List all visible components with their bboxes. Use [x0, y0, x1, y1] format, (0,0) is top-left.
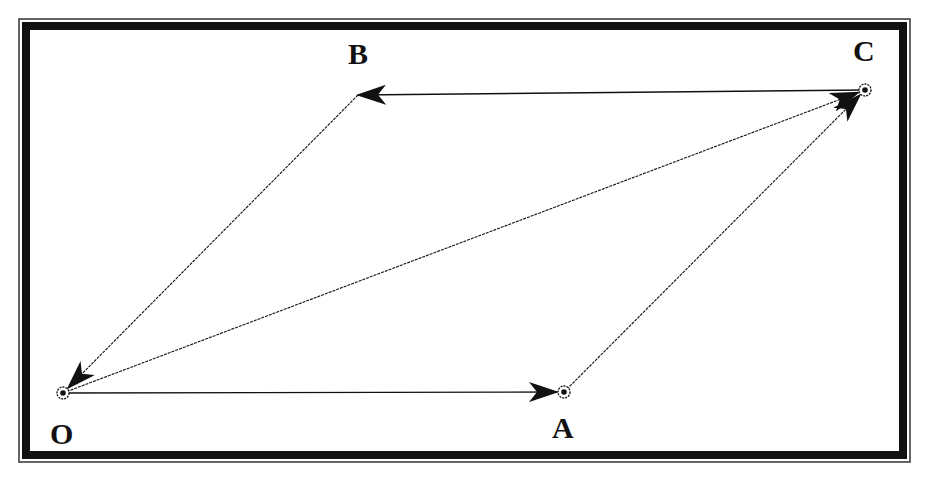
vector-BO: [68, 95, 358, 388]
vector-AC: [564, 95, 860, 392]
point-label-o: O: [50, 417, 73, 450]
diagram-canvas: OACB: [0, 0, 925, 477]
point-label-a: A: [552, 411, 574, 444]
vector-OA: [63, 392, 557, 393]
point-label-b: B: [348, 37, 368, 70]
point-o-marker: [57, 387, 69, 399]
vectors-group: [63, 90, 865, 393]
vector-OC: [63, 92, 858, 393]
vector-CB: [358, 90, 865, 95]
point-c-marker: [859, 84, 871, 96]
point-label-c: C: [853, 34, 875, 67]
point-a-marker: [558, 386, 570, 398]
diagram-frame: [19, 19, 910, 462]
